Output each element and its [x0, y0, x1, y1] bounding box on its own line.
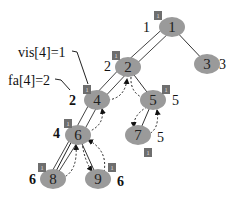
tree-node-7: 751 [125, 125, 164, 157]
visited-flag: 1 [144, 148, 152, 157]
node-label: 5 [149, 92, 157, 108]
annotations: vis[4]=1 fa[4]=2 [8, 45, 66, 88]
svg-text:1: 1 [164, 86, 168, 94]
tree-node-4: 421 [69, 85, 110, 110]
visited-flag: 1 [112, 51, 120, 60]
node-side-label: 4 [53, 126, 60, 141]
down-arrow-5-to-7 [134, 107, 147, 127]
svg-text:1: 1 [110, 164, 114, 172]
node-label: 8 [49, 171, 57, 187]
fa-annotation: fa[4]=2 [8, 73, 50, 88]
visited-flag: 1 [162, 85, 170, 94]
node-side-label: 2 [69, 93, 76, 108]
svg-text:1: 1 [114, 52, 118, 60]
node-side-label: 3 [219, 57, 226, 72]
node-label: 9 [94, 171, 102, 187]
visited-flag: 1 [154, 11, 162, 20]
visited-flag: 1 [38, 163, 46, 172]
tree-node-6: 641 [53, 119, 91, 145]
node-label: 1 [168, 19, 176, 35]
return-arrow-6-to-4 [88, 109, 102, 132]
return-arrow-9-to-6 [88, 140, 105, 172]
node-side-label: 6 [117, 174, 124, 189]
visited-flag: 1 [64, 119, 72, 128]
tree-node-1: 111 [143, 11, 185, 37]
fa-leader-line [55, 79, 70, 90]
nodes-layer: 11122133421551641751861961 [29, 11, 226, 189]
node-side-label: 2 [104, 59, 111, 74]
tree-node-3: 33 [194, 54, 226, 74]
svg-text:1: 1 [40, 164, 44, 172]
node-side-label: 5 [172, 93, 179, 108]
vis-leader-line [72, 51, 88, 84]
node-label: 4 [93, 92, 101, 108]
svg-text:1: 1 [156, 12, 160, 20]
vis-annotation: vis[4]=1 [18, 45, 66, 60]
node-side-label: 1 [143, 20, 150, 35]
node-label: 6 [74, 127, 82, 143]
return-arrow-4-to-2 [108, 79, 127, 100]
node-label: 2 [124, 59, 132, 75]
svg-text:1: 1 [146, 149, 150, 157]
visited-flag: 1 [83, 85, 91, 94]
node-label: 3 [203, 56, 211, 72]
dfs-tree-diagram: 11122133421551641751861961 vis[4]=1 fa[4… [0, 0, 234, 197]
svg-text:1: 1 [66, 120, 70, 128]
node-side-label: 6 [29, 172, 36, 187]
tree-node-2: 221 [104, 51, 141, 77]
tree-node-8: 861 [29, 163, 66, 189]
tree-node-5: 551 [140, 85, 179, 110]
visited-flag: 1 [108, 163, 116, 172]
node-label: 7 [134, 127, 142, 143]
svg-text:1: 1 [85, 86, 89, 94]
node-side-label: 5 [157, 130, 164, 145]
